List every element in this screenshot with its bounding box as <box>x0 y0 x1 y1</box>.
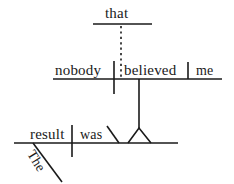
complement-slant-line <box>107 126 119 143</box>
word-me: me <box>196 64 214 78</box>
word-was: was <box>80 128 102 142</box>
word-result: result <box>30 127 65 142</box>
word-nobody: nobody <box>55 63 101 78</box>
sentence-diagram: that nobody believed me result was The <box>0 0 234 184</box>
triangle-pedestal-shape <box>128 128 151 143</box>
word-believed: believed <box>124 63 176 78</box>
word-that: that <box>105 6 128 21</box>
